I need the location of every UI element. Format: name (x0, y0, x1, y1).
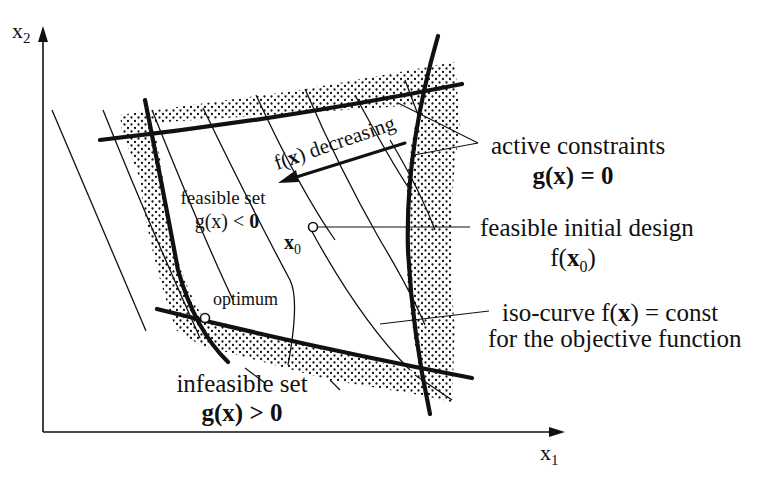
initial-design-point (309, 223, 318, 232)
optimization-diagram: f(x) decreasing feasible set g(x) < 0 x0… (0, 0, 777, 482)
active-constraints-condition: g(x) = 0 (533, 162, 614, 190)
iso-curve (330, 380, 340, 390)
feasible-set-label: feasible set (181, 187, 267, 208)
infeasible-set-condition: g(x) > 0 (202, 399, 283, 427)
initial-design-label: feasible initial design (480, 214, 694, 241)
x0-label: x0 (284, 231, 301, 257)
y-axis-arrow-icon (38, 26, 48, 42)
feasible-set-condition: g(x) < 0 (195, 210, 260, 233)
initial-design-value: f(x0) (550, 244, 595, 275)
x-axis-label: x1 (540, 440, 559, 468)
iso-curve-label: iso-curve f(x) = const (502, 299, 718, 327)
optimum-label: optimum (213, 289, 278, 309)
optimum-point (201, 314, 210, 323)
x-axis-arrow-icon (549, 427, 565, 437)
active-constraints-label: active constraints (491, 132, 665, 159)
y-axis-label: x2 (12, 18, 31, 46)
infeasible-set-label: infeasible set (176, 370, 307, 397)
iso-curve-description: for the objective function (488, 325, 742, 352)
